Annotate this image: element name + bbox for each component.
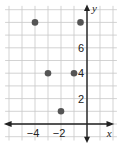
y-tick-label: 2 [78,93,84,105]
y-axis-up-arrow-icon [84,5,90,11]
y-tick-label: 6 [78,42,84,54]
data-point [45,70,52,77]
x-tick-label: −2 [53,127,66,139]
y-axis-label: y [91,2,97,14]
data-point [77,19,84,26]
data-point [58,108,65,115]
grid-lines [5,6,117,141]
data-point [71,70,78,77]
x-tick-label: −4 [27,127,40,139]
y-tick-label: 4 [78,67,84,79]
y-axis-down-arrow-icon [84,137,90,143]
x-axis-label: x [106,127,112,139]
data-points [32,19,84,115]
axes [4,5,115,143]
x-axis-left-arrow-icon [4,121,12,127]
scatter-plot: xy−4−2246 [0,0,127,149]
data-point [32,19,39,26]
